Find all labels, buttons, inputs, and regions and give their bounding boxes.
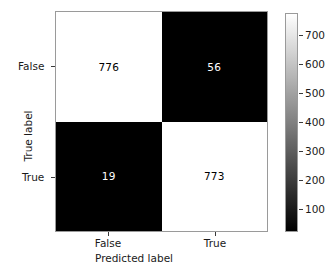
colorbar-tick-mark-100	[299, 209, 303, 210]
matrix-cell-true-false-pred-true: 56	[162, 12, 268, 122]
colorbar-tick-mark-400	[299, 122, 303, 123]
colorbar-tick-label-400: 400	[305, 116, 325, 128]
y-axis-label: True label	[22, 110, 34, 161]
x-tick-mark-true	[215, 232, 216, 236]
colorbar-tick-label-100: 100	[305, 203, 325, 215]
y-tick-label-true: True	[22, 171, 44, 183]
matrix-cell-value: 773	[204, 171, 225, 182]
y-tick-label-false: False	[18, 60, 44, 72]
confusion-matrix-figure: True label False True 776 56 19 773 Fals…	[0, 0, 327, 272]
x-tick-label-false: False	[95, 237, 121, 249]
colorbar-tick-label-700: 700	[305, 29, 325, 41]
matrix-cell-value: 19	[102, 171, 116, 182]
colorbar-tick-mark-200	[299, 180, 303, 181]
matrix-cell-value: 776	[98, 62, 119, 73]
colorbar-tick-mark-300	[299, 151, 303, 152]
colorbar-tick-mark-700	[299, 35, 303, 36]
x-tick-label-true: True	[204, 237, 226, 249]
matrix-cell-true-true-pred-true: 773	[162, 122, 268, 232]
matrix-cell-value: 56	[207, 62, 221, 73]
x-tick-mark-false	[108, 232, 109, 236]
confusion-matrix-grid: 776 56 19 773	[56, 12, 267, 231]
heatmap-axes: 776 56 19 773	[55, 11, 268, 232]
colorbar-tick-label-500: 500	[305, 87, 325, 99]
colorbar-tick-mark-600	[299, 64, 303, 65]
colorbar-tick-mark-500	[299, 93, 303, 94]
x-axis-label: Predicted label	[0, 252, 268, 264]
colorbar-gradient	[286, 14, 297, 231]
matrix-cell-true-true-pred-false: 19	[56, 122, 162, 232]
matrix-cell-true-false-pred-false: 776	[56, 12, 162, 122]
colorbar-tick-label-300: 300	[305, 145, 325, 157]
colorbar	[285, 13, 298, 232]
colorbar-tick-label-200: 200	[305, 174, 325, 186]
colorbar-tick-label-600: 600	[305, 58, 325, 70]
